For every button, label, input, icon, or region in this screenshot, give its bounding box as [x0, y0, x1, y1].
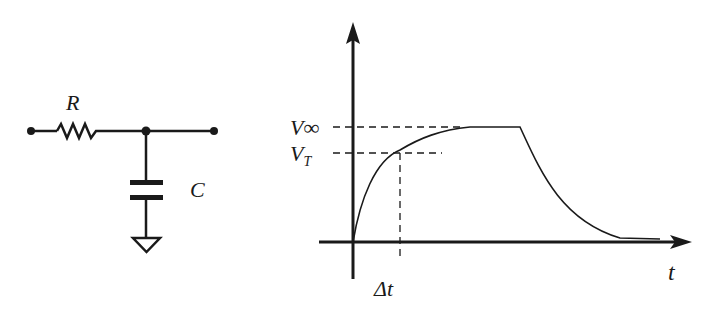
voltage-curve — [353, 127, 660, 242]
output-terminal — [210, 127, 218, 135]
rc-circuit-diagram: R C V∞ VT t Δt — [0, 0, 712, 309]
voltage-time-graph — [319, 22, 692, 279]
v-threshold-label: VT — [290, 141, 312, 169]
resistor-icon — [57, 124, 101, 138]
resistor-label: R — [65, 90, 80, 115]
time-axis-label: t — [668, 259, 676, 285]
capacitor-icon — [130, 180, 163, 200]
ground-icon — [133, 238, 160, 252]
v-threshold-subscript: T — [303, 154, 312, 169]
v-infinity-label: V∞ — [290, 115, 319, 140]
delta-t-label: Δt — [373, 276, 394, 301]
capacitor-label: C — [190, 177, 205, 202]
